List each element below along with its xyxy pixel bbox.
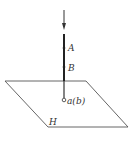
- label-point-b: B: [67, 63, 75, 73]
- point-a-marker: [63, 47, 66, 50]
- projection-point-marker: [62, 98, 66, 102]
- projection-diagram: A B a(b) H: [0, 0, 140, 144]
- label-point-a: A: [67, 43, 75, 53]
- point-b-marker: [63, 66, 66, 69]
- label-plane-h: H: [48, 117, 57, 127]
- label-projection: a(b): [67, 96, 86, 106]
- arrowhead-icon: [62, 23, 66, 30]
